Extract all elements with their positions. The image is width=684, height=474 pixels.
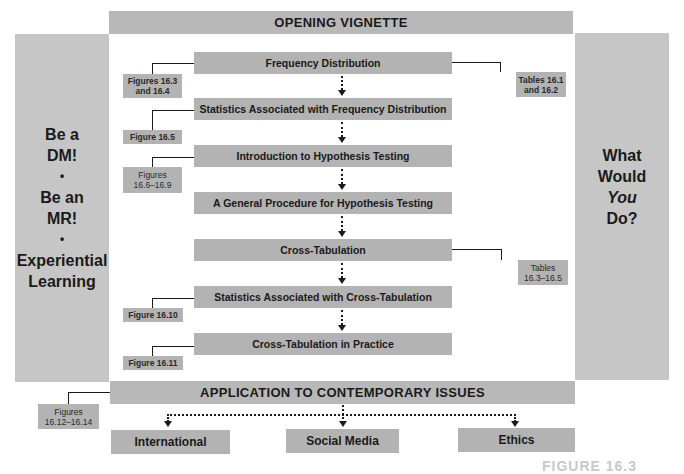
connector-line <box>68 392 110 393</box>
connector-line <box>501 249 502 260</box>
ref-tables-16-3-16-5: Tables 16.3–16.5 <box>518 260 568 285</box>
flow-step-general-procedure: A General Procedure for Hypothesis Testi… <box>194 192 452 214</box>
flow-step-frequency-distribution: Frequency Distribution <box>194 52 452 74</box>
flow-connector <box>341 169 343 184</box>
branch-label: Ethics <box>498 433 534 447</box>
flow-step-cross-tabulation: Cross-Tabulation <box>194 239 452 261</box>
branch-social-media: Social Media <box>286 429 399 453</box>
flow-step-label: Frequency Distribution <box>266 57 381 69</box>
arrow-down-icon <box>164 421 172 427</box>
flow-step-cross-tab-practice: Cross-Tabulation in Practice <box>194 333 452 355</box>
flow-step-label: Statistics Associated with Frequency Dis… <box>200 103 447 115</box>
bullet: • <box>60 229 64 250</box>
arrow-down-icon <box>338 90 346 96</box>
connector-line <box>152 157 194 158</box>
right-panel-line: What <box>602 145 641 166</box>
ref-figure-16-10: Figure 16.10 <box>123 308 183 322</box>
arrow-down-icon <box>338 184 346 190</box>
branch-label: International <box>134 435 206 449</box>
flow-connector <box>341 216 343 231</box>
flow-step-label: Statistics Associated with Cross-Tabulat… <box>214 291 432 303</box>
ref-figure-16-11: Figure 16.11 <box>123 356 183 370</box>
connector-line <box>152 157 153 167</box>
arrow-down-icon <box>338 231 346 237</box>
connector-line <box>152 298 194 299</box>
connector-line <box>152 110 153 130</box>
contemporary-issues-header: APPLICATION TO CONTEMPORARY ISSUES <box>110 381 575 404</box>
right-panel: What Would You Do? <box>575 33 669 380</box>
connector-line <box>152 346 194 347</box>
flow-connector <box>341 310 343 325</box>
ref-figures-16-6-16-9: Figures 16.6–16.9 <box>123 167 182 193</box>
right-panel-line: Do? <box>606 208 637 229</box>
flow-step-label: Cross-Tabulation in Practice <box>252 338 394 350</box>
arrow-down-icon <box>338 137 346 143</box>
figure-caption-text: FIGURE 16.3 <box>542 458 637 474</box>
right-panel-line: Would <box>598 166 647 187</box>
branch-international: International <box>111 430 230 454</box>
flow-step-label: Introduction to Hypothesis Testing <box>236 150 409 162</box>
ref-tables-16-1-16-2: Tables 16.1 and 16.2 <box>516 72 566 97</box>
left-panel-line: MR! <box>47 208 77 229</box>
connector-line <box>500 62 501 72</box>
contemporary-issues-title: APPLICATION TO CONTEMPORARY ISSUES <box>200 385 485 400</box>
left-panel-line: Be an <box>40 187 84 208</box>
connector-line <box>452 62 501 63</box>
arrow-down-icon <box>511 421 519 427</box>
branch-connector <box>342 405 344 419</box>
flow-connector <box>341 76 343 90</box>
flow-step-statistics-frequency: Statistics Associated with Frequency Dis… <box>194 98 452 120</box>
flow-step-intro-hypothesis: Introduction to Hypothesis Testing <box>194 145 452 167</box>
flow-step-label: A General Procedure for Hypothesis Testi… <box>213 197 433 209</box>
connector-line <box>152 63 194 64</box>
figure-caption: FIGURE 16.3 <box>542 458 637 474</box>
flow-step-label: Cross-Tabulation <box>280 244 366 256</box>
opening-vignette-title: OPENING VIGNETTE <box>274 15 407 30</box>
right-panel-line-italic: You <box>607 187 637 208</box>
left-panel: Be a DM! • Be an MR! • Experiential Lear… <box>15 34 109 382</box>
left-panel-line: Experiential <box>17 250 108 271</box>
ref-figure-16-5: Figure 16.5 <box>123 130 182 144</box>
left-panel-line: Be a <box>45 124 79 145</box>
arrow-down-icon <box>339 421 347 427</box>
branch-connector-horizontal <box>167 414 516 416</box>
ref-figures-16-3-16-4: Figures 16.3 and 16.4 <box>123 74 182 98</box>
connector-line <box>68 392 69 404</box>
flow-step-statistics-cross-tab: Statistics Associated with Cross-Tabulat… <box>194 286 452 308</box>
opening-vignette-header: OPENING VIGNETTE <box>109 11 573 34</box>
bullet: • <box>60 166 64 187</box>
left-panel-line: DM! <box>47 145 77 166</box>
connector-line <box>152 346 153 356</box>
arrow-down-icon <box>338 325 346 331</box>
branch-label: Social Media <box>306 434 379 448</box>
connector-line <box>152 298 153 308</box>
connector-line <box>152 63 153 74</box>
flow-connector <box>341 122 343 137</box>
ref-figures-16-12-16-14: Figures 16.12–16.14 <box>38 404 99 429</box>
branch-ethics: Ethics <box>458 428 575 452</box>
connector-line <box>452 249 502 250</box>
connector-line <box>152 110 194 111</box>
arrow-down-icon <box>338 278 346 284</box>
flow-connector <box>341 263 343 278</box>
left-panel-line: Learning <box>28 271 96 292</box>
